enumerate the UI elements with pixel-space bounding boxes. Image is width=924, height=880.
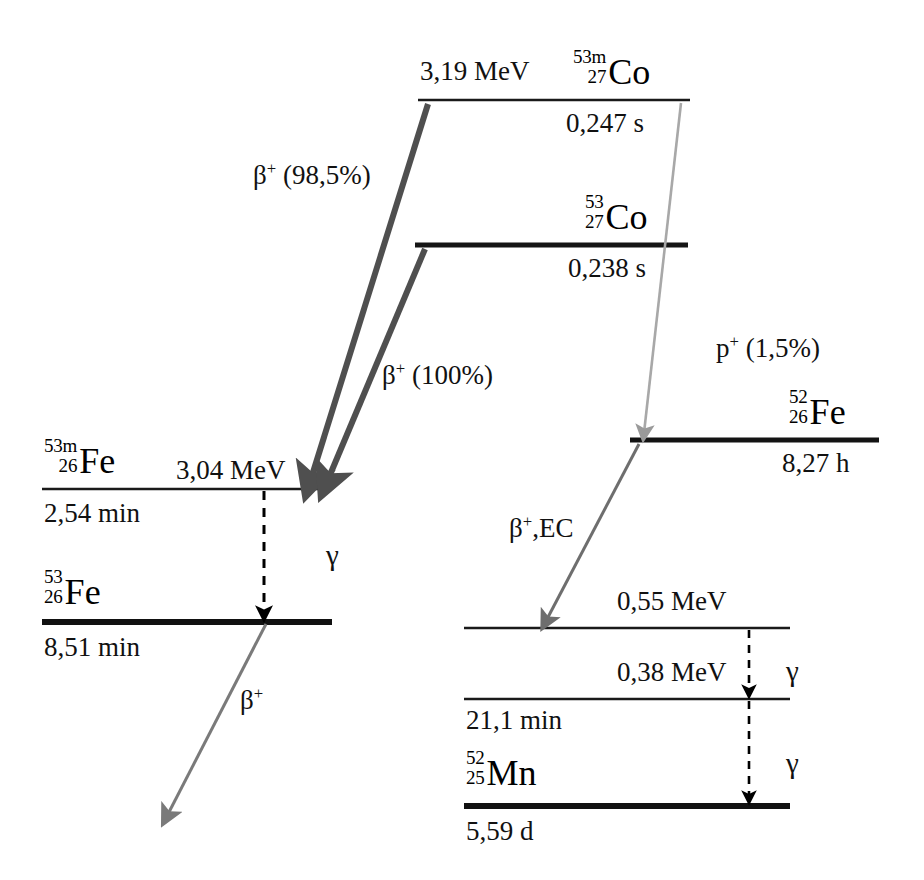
halflife-label-co53: 0,238 s xyxy=(568,255,646,282)
nuclide-label-fe53: 53 26 Fe xyxy=(44,567,101,610)
nuclide-label-fe52: 52 26 Fe xyxy=(789,387,846,430)
transition-arrow-proton-1-5 xyxy=(644,103,681,433)
nuclide-az-co53m: 53m 27 xyxy=(573,47,606,90)
transition-branch-beta-98-5: (98,5%) xyxy=(276,160,370,190)
transition-particle-beta-98-5: β xyxy=(253,160,267,190)
nuclide-number-fe53m: 26 xyxy=(59,456,78,476)
transition-particle-beta-fe53: β xyxy=(240,685,254,715)
halflife-label-fe53m: 2,54 min xyxy=(44,500,140,527)
transition-particle-beta-100: β xyxy=(382,360,396,390)
nuclide-az-fe52: 52 26 xyxy=(789,387,808,430)
transition-charge-beta-100: + xyxy=(396,359,405,378)
nuclide-number-co53m: 27 xyxy=(588,67,607,87)
transition-label-beta-100: β+ (100%) xyxy=(382,362,493,389)
transition-branch-beta-ec: ,EC xyxy=(532,513,573,543)
transition-label-proton-1-5: p+ (1,5%) xyxy=(716,335,820,362)
nuclide-symbol-co53m: Co xyxy=(608,56,650,89)
nuclide-mass-mn52: 52 xyxy=(466,748,485,768)
nuclide-az-co53: 53 27 xyxy=(585,192,604,235)
transition-charge-proton-1-5: + xyxy=(730,332,739,351)
nuclide-symbol-fe53m: Fe xyxy=(79,445,115,478)
transition-charge-beta-fe53: + xyxy=(254,684,263,703)
transition-label-gamma-mn-lower: γ xyxy=(786,749,799,778)
decay-scheme-diagram: 3,19 MeV 53m 27 Co 0,247 s 53 27 Co 0,23… xyxy=(0,0,924,880)
energy-label-mn52-055: 0,55 MeV xyxy=(617,588,727,615)
nuclide-number-fe52: 26 xyxy=(789,407,808,427)
transition-label-beta-98-5: β+ (98,5%) xyxy=(253,162,371,189)
nuclide-label-fe53m: 53m 26 Fe xyxy=(44,436,115,479)
nuclide-az-fe53m: 53m 26 xyxy=(44,436,77,479)
energy-label-co53m: 3,19 MeV xyxy=(420,58,530,85)
nuclide-number-co53: 27 xyxy=(585,212,604,232)
energy-label-fe53m: 3,04 MeV xyxy=(176,457,286,484)
nuclide-symbol-mn52: Mn xyxy=(487,757,537,790)
transition-label-gamma-mn-upper: γ xyxy=(786,657,799,686)
transition-particle-proton-1-5: p xyxy=(716,333,730,363)
transition-charge-beta-98-5: + xyxy=(267,159,276,178)
transition-arrow-beta-fe53 xyxy=(167,624,266,816)
transition-branch-proton-1-5: (1,5%) xyxy=(739,333,820,363)
halflife-label-co53m: 0,247 s xyxy=(566,110,644,137)
nuclide-label-co53: 53 27 Co xyxy=(585,192,648,235)
nuclide-symbol-fe52: Fe xyxy=(810,396,846,429)
nuclide-symbol-co53: Co xyxy=(606,201,648,234)
transition-charge-beta-ec: + xyxy=(523,512,532,531)
nuclide-number-mn52: 25 xyxy=(466,768,485,788)
transition-label-beta-fe53: β+ xyxy=(240,687,263,714)
halflife-label-mn52-038: 21,1 min xyxy=(466,707,562,734)
nuclide-mass-fe53m: 53m xyxy=(44,436,77,456)
transition-label-beta-ec: β+,EC xyxy=(509,515,573,542)
nuclide-mass-co53m: 53m xyxy=(573,47,606,67)
halflife-label-fe53: 8,51 min xyxy=(44,634,140,661)
transition-label-gamma-fe: γ xyxy=(326,541,339,570)
nuclide-symbol-fe53: Fe xyxy=(65,576,101,609)
halflife-label-fe52: 8,27 h xyxy=(782,450,850,477)
nuclide-az-fe53: 53 26 xyxy=(44,567,63,610)
transition-particle-beta-ec: β xyxy=(509,513,523,543)
nuclide-mass-fe52: 52 xyxy=(789,387,808,407)
halflife-label-mn52: 5,59 d xyxy=(466,818,534,845)
nuclide-az-mn52: 52 25 xyxy=(466,748,485,791)
nuclide-mass-fe53: 53 xyxy=(44,567,63,587)
nuclide-number-fe53: 26 xyxy=(44,587,63,607)
nuclide-label-mn52: 52 25 Mn xyxy=(466,748,537,791)
energy-label-mn52-038: 0,38 MeV xyxy=(617,659,727,686)
nuclide-label-co53m: 53m 27 Co xyxy=(573,47,650,90)
transition-branch-beta-100: (100%) xyxy=(405,360,493,390)
nuclide-mass-co53: 53 xyxy=(585,192,604,212)
